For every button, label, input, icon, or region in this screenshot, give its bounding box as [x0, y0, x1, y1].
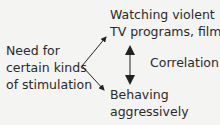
arrows: [0, 0, 220, 125]
double-arrow-icon: [125, 45, 135, 85]
arrow-to-bottom-icon: [82, 66, 104, 90]
arrow-to-top-icon: [82, 37, 106, 66]
